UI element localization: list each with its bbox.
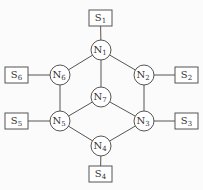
node-n2: N2 — [134, 65, 154, 85]
station-s5: S5 — [5, 113, 28, 129]
station-s2: S2 — [175, 67, 198, 83]
node-n5: N5 — [50, 111, 70, 131]
node-n1: N1 — [91, 40, 111, 60]
station-s4: S4 — [89, 166, 112, 182]
station-s3: S3 — [175, 113, 198, 129]
node-n4: N4 — [91, 136, 111, 156]
node-n7: N7 — [91, 87, 111, 107]
node-n3: N3 — [134, 111, 154, 131]
node-n6: N6 — [50, 65, 70, 85]
network-diagram: S1S2S3S4S5S6 N1N2N3N4N5N6N7 — [0, 0, 203, 190]
station-s1: S1 — [89, 10, 112, 26]
station-s6: S6 — [5, 67, 28, 83]
nodes: N1N2N3N4N5N6N7 — [50, 40, 154, 156]
